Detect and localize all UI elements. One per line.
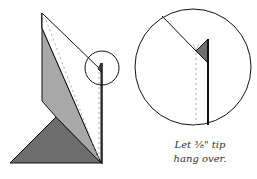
- enlarged-detail-circle: [135, 9, 251, 125]
- caption-line-1: Let ⅜" tip: [150, 138, 250, 152]
- caption-line-2: hang over.: [150, 152, 250, 166]
